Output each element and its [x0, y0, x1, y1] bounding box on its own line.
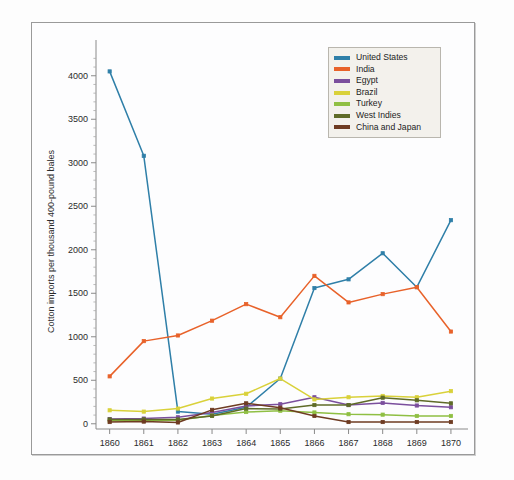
data-point	[142, 410, 145, 413]
legend-item-china-and-japan[interactable]: China and Japan	[334, 122, 435, 134]
legend-label-brazil: Brazil	[356, 87, 378, 99]
legend-label-india: India	[356, 64, 375, 76]
data-point	[347, 413, 350, 416]
y-tick-label: 3500	[68, 114, 88, 124]
data-point	[381, 401, 384, 404]
data-point	[347, 278, 350, 281]
x-tick-label: 1870	[441, 438, 461, 448]
x-axis: 1860186118621863186418651866186718681869…	[96, 429, 468, 448]
data-point	[108, 375, 111, 378]
y-tick-label: 4000	[68, 71, 88, 81]
data-point	[245, 410, 248, 413]
data-point	[313, 414, 316, 417]
data-point	[313, 398, 316, 401]
data-point	[245, 392, 248, 395]
chart-frame: 05001000150020002500300035004000 1860186…	[31, 22, 475, 455]
data-point	[381, 420, 384, 423]
data-point	[245, 407, 248, 410]
y-tick-label: 2000	[68, 245, 88, 255]
data-point	[176, 334, 179, 337]
y-axis-title: Cotton imports per thousand 400-pound ba…	[46, 149, 56, 333]
y-axis: 05001000150020002500300035004000	[68, 40, 96, 429]
x-tick-label: 1860	[100, 438, 120, 448]
data-point	[108, 420, 111, 423]
legend-label-united-states: United States	[356, 52, 408, 64]
x-tick-label: 1866	[304, 438, 324, 448]
legend-item-india[interactable]: India	[334, 64, 435, 76]
legend-label-turkey: Turkey	[356, 98, 382, 110]
data-point	[176, 407, 179, 410]
data-point	[279, 403, 282, 406]
legend-item-west-indies[interactable]: West Indies	[334, 110, 435, 122]
data-point	[279, 316, 282, 319]
data-point	[347, 396, 350, 399]
data-point	[210, 414, 213, 417]
data-point	[347, 403, 350, 406]
chart-legend[interactable]: United States India Egypt Brazil Turkey …	[328, 47, 441, 138]
data-point	[142, 420, 145, 423]
data-point	[415, 399, 418, 402]
x-tick-label: 1863	[202, 438, 222, 448]
x-tick-label: 1869	[407, 438, 427, 448]
data-point	[415, 414, 418, 417]
data-point	[108, 70, 111, 73]
data-point	[142, 154, 145, 157]
legend-item-turkey[interactable]: Turkey	[334, 98, 435, 110]
data-point	[279, 406, 282, 409]
data-point	[347, 301, 350, 304]
legend-swatch-egypt	[334, 79, 350, 83]
legend-swatch-west-indies	[334, 114, 350, 118]
data-point	[449, 330, 452, 333]
x-tick-label: 1868	[373, 438, 393, 448]
data-point	[415, 420, 418, 423]
y-tick-label: 3000	[68, 158, 88, 168]
data-point	[381, 396, 384, 399]
x-tick-label: 1861	[134, 438, 154, 448]
data-point	[245, 402, 248, 405]
x-tick-label: 1862	[168, 438, 188, 448]
series-line-india	[110, 276, 451, 376]
legend-swatch-india	[334, 67, 350, 71]
chart-page: 05001000150020002500300035004000 1860186…	[0, 0, 514, 480]
legend-swatch-united-states	[334, 56, 350, 60]
data-point	[381, 413, 384, 416]
legend-label-egypt: Egypt	[356, 75, 378, 87]
data-point	[415, 404, 418, 407]
legend-label-west-indies: West Indies	[356, 110, 401, 122]
legend-label-china-and-japan: China and Japan	[356, 122, 421, 134]
data-point	[313, 286, 316, 289]
data-point	[347, 420, 350, 423]
data-point	[313, 403, 316, 406]
data-point	[449, 406, 452, 409]
data-point	[210, 408, 213, 411]
data-point	[449, 414, 452, 417]
x-tick-label: 1867	[339, 438, 359, 448]
data-point	[245, 303, 248, 306]
y-tick-label: 1000	[68, 332, 88, 342]
data-point	[210, 397, 213, 400]
data-point	[313, 274, 316, 277]
data-point	[449, 219, 452, 222]
data-point	[381, 252, 384, 255]
data-point	[449, 402, 452, 405]
data-point	[313, 411, 316, 414]
data-point	[279, 377, 282, 380]
legend-swatch-brazil	[334, 91, 350, 95]
data-point	[449, 390, 452, 393]
legend-item-brazil[interactable]: Brazil	[334, 87, 435, 99]
legend-item-united-states[interactable]: United States	[334, 52, 435, 64]
data-point	[108, 409, 111, 412]
legend-swatch-china-and-japan	[334, 125, 350, 129]
legend-item-egypt[interactable]: Egypt	[334, 75, 435, 87]
x-tick-label: 1865	[270, 438, 290, 448]
y-tick-label: 1500	[68, 288, 88, 298]
x-tick-label: 1864	[236, 438, 256, 448]
y-tick-label: 2500	[68, 201, 88, 211]
data-point	[415, 286, 418, 289]
data-point	[381, 293, 384, 296]
data-point	[176, 421, 179, 424]
data-point	[210, 319, 213, 322]
data-point	[142, 340, 145, 343]
y-axis-title-text: Cotton imports per thousand 400-pound ba…	[46, 149, 56, 333]
legend-swatch-turkey	[334, 102, 350, 106]
